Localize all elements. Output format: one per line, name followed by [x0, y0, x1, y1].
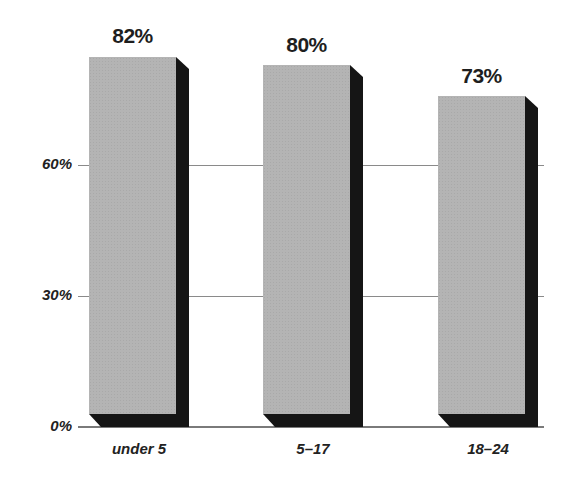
- bar-face: [263, 65, 350, 414]
- bar-shadow-bottom: [438, 414, 538, 427]
- bar-shadow-bottom: [263, 414, 363, 427]
- category-label-18-24: 18–24: [438, 440, 538, 457]
- bar-shadow-side: [350, 65, 363, 427]
- y-tick-0: 0%: [0, 417, 72, 434]
- bar-chart: 60% 30% 0% 82% under 5 80% 5–17 73% 18–2…: [0, 0, 568, 487]
- bar-shadow-bottom: [89, 414, 189, 427]
- value-label-18-24: 73%: [438, 64, 525, 88]
- y-tick-60: 60%: [0, 155, 72, 172]
- bar-face: [438, 96, 525, 414]
- value-label-under-5: 82%: [89, 24, 176, 48]
- bar-face: [89, 57, 176, 414]
- bar-shadow-side: [176, 57, 189, 427]
- y-tick-30: 30%: [0, 286, 72, 303]
- bar-shadow-side: [525, 96, 538, 427]
- value-label-5-17: 80%: [263, 33, 350, 57]
- category-label-5-17: 5–17: [263, 440, 363, 457]
- category-label-under-5: under 5: [89, 440, 189, 457]
